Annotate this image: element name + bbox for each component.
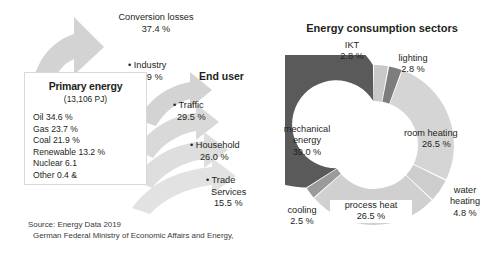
donut-slice-mechanical-energy [285, 55, 373, 187]
mechanical-text-2: energy [272, 135, 342, 146]
mechanical-value: 39.0 % [272, 147, 342, 158]
mechanical-text-1: mechanical [272, 124, 342, 135]
end-user-item-traffic: • Traffic 29.5 % [173, 100, 206, 123]
conversion-losses-text: Conversion losses [96, 12, 216, 24]
donut-slice-room-heating [390, 70, 454, 179]
slice-label-mechanical-energy: mechanical energy 39.0 % [272, 124, 342, 158]
list-item: Coal 21.9 % [33, 135, 146, 147]
cooling-value: 2.5 % [277, 216, 327, 227]
primary-energy-box: Primary energy (13,106 PJ) Oil 34.6 % Ga… [24, 72, 147, 185]
end-user-item-household: • Household 26.0 % [190, 140, 240, 163]
list-item: Oil 34.6 % [33, 112, 146, 124]
end-user-item-trade-services: • Trade Services 15.5 % [206, 175, 246, 210]
ikt-text: IKT [325, 40, 379, 51]
slice-label-cooling: cooling 2.5 % [277, 205, 327, 228]
primary-energy-subtitle: (13,106 PJ) [25, 94, 146, 104]
process-heat-text: process heat [330, 200, 412, 211]
source-line-2: German Federal Ministry of Economic Affa… [28, 230, 234, 241]
ikt-value: 2.8 % [325, 51, 379, 62]
list-item: Renewable 13.2 % [33, 147, 146, 159]
water-heating-value: 4.8 % [437, 208, 493, 219]
room-heating-value: 26.5 % [404, 139, 490, 150]
conversion-losses-label: Conversion losses 37.4 % [96, 12, 216, 35]
traffic-text: • Traffic [173, 100, 206, 112]
traffic-value: 29.5 % [173, 112, 206, 124]
water-heating-text-2: heating [437, 196, 493, 207]
household-value: 26.0 % [190, 152, 240, 164]
trade-value: 15.5 % [206, 198, 246, 210]
lighting-value: 2.8 % [382, 64, 444, 75]
chart-title: Energy consumption sectors [287, 22, 477, 34]
slice-label-water-heating: water heating 4.8 % [437, 185, 493, 219]
trade-text: • Trade [206, 175, 246, 187]
list-item: Gas 23.7 % [33, 124, 146, 136]
lighting-text: lighting [382, 53, 444, 64]
industry-text: • Industry [128, 60, 166, 72]
slice-label-room-heating: room heating 26.5 % [404, 128, 490, 151]
water-heating-text-1: water [437, 185, 493, 196]
source-line-1: Source: Energy Data 2019 [28, 219, 234, 230]
source-note: Source: Energy Data 2019 German Federal … [28, 219, 234, 241]
room-heating-text: room heating [404, 128, 490, 139]
primary-energy-source-list: Oil 34.6 % Gas 23.7 % Coal 21.9 % Renewa… [25, 112, 146, 182]
list-item: Nuclear 6.1 [33, 158, 146, 170]
list-item: Other 0.4 & [33, 170, 146, 182]
process-heat-value: 26.5 % [330, 211, 412, 222]
slice-label-lighting: lighting 2.8 % [382, 53, 444, 76]
services-text: Services [206, 187, 246, 199]
household-text: • Household [190, 140, 240, 152]
infographic-canvas: Primary energy (13,106 PJ) Oil 34.6 % Ga… [0, 0, 498, 265]
end-user-heading: End user [199, 71, 244, 83]
cooling-text: cooling [277, 205, 327, 216]
slice-label-process-heat: process heat 26.5 % [330, 200, 412, 223]
slice-label-ikt: IKT 2.8 % [325, 40, 379, 63]
primary-energy-title: Primary energy [25, 80, 146, 92]
conversion-losses-value: 37.4 % [96, 24, 216, 36]
